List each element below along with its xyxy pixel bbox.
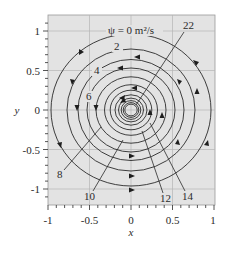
contour-label-psi-12: 12	[160, 192, 171, 204]
y-tick-label: -0.5	[23, 144, 41, 156]
contour-label-psi-2: 2	[114, 40, 120, 52]
x-tick-label: 1	[210, 214, 216, 226]
contour-label-psi-0: ψ = 0 m²/s	[108, 24, 154, 36]
y-tick-label: 1	[35, 25, 41, 37]
y-axis-label: y	[14, 104, 20, 116]
x-tick-label: 0	[128, 214, 134, 226]
x-tick-label: -1	[43, 214, 52, 226]
contour-label-psi-6: 6	[86, 90, 92, 102]
x-tick-label: -0.5	[81, 214, 99, 226]
contour-label-psi-4: 4	[94, 64, 100, 76]
x-axis-label: x	[128, 226, 134, 238]
x-tick-label: 0.5	[166, 214, 180, 226]
y-tick-label: 0	[35, 104, 41, 116]
contour-label-psi-14: 14	[182, 190, 194, 202]
y-tick-label: 0.5	[26, 65, 40, 77]
vortex-streamline-plot: ψ = 0 m²/s 2 4 6 8 10 12 14 22 -1 -0.5 0…	[0, 0, 229, 253]
contour-label-psi-10: 10	[84, 190, 96, 202]
contour-label-psi-22: 22	[183, 19, 194, 31]
contour-label-psi-8: 8	[57, 168, 63, 180]
y-tick-label: -1	[31, 183, 40, 195]
